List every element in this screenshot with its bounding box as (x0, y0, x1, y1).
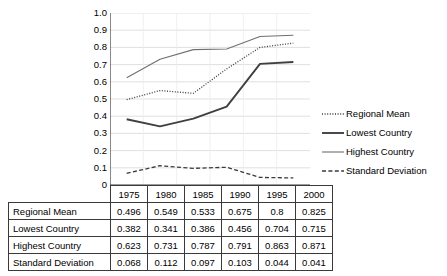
table-cell: 0.097 (185, 254, 222, 271)
legend-item[interactable]: Standard Deviation (322, 161, 447, 180)
table-cell: 0.103 (222, 254, 259, 271)
table-cell: 0.044 (259, 254, 296, 271)
table-cell: 0.715 (296, 220, 333, 237)
y-axis-tick-label: 0.5 (81, 94, 107, 104)
legend-line-icon (322, 109, 344, 119)
table-header-cell: 2000 (296, 186, 333, 203)
table-header-cell: 1980 (148, 186, 185, 203)
table-row-label: Highest Country (9, 237, 111, 254)
table-row: Standard Deviation0.0680.1120.0970.1030.… (9, 254, 333, 271)
table-body: Regional Mean0.4960.5490.5330.6750.80.82… (9, 203, 333, 271)
table-header-cell: 1975 (111, 186, 148, 203)
legend-item[interactable]: Lowest Country (322, 123, 447, 142)
table-cell: 0.623 (111, 237, 148, 254)
table-row: Regional Mean0.4960.5490.5330.6750.80.82… (9, 203, 333, 220)
table-header-cell: 1995 (259, 186, 296, 203)
y-axis-tick-label: 0.2 (81, 146, 107, 156)
legend-item[interactable]: Highest Country (322, 142, 447, 161)
legend-line-icon (322, 128, 344, 138)
chart-figure: 1.00.90.80.70.60.50.40.30.20.10 Regional… (0, 0, 447, 276)
table-header-cell: 1990 (222, 186, 259, 203)
plot-area (110, 13, 310, 185)
legend-item-label: Standard Deviation (346, 165, 427, 176)
legend-item-label: Regional Mean (346, 108, 410, 119)
y-axis-tick-label: 0.1 (81, 163, 107, 173)
table-cell: 0.675 (222, 203, 259, 220)
table-cell: 0.825 (296, 203, 333, 220)
table-cell: 0.8 (259, 203, 296, 220)
table-cell: 0.496 (111, 203, 148, 220)
table-cell: 0.871 (296, 237, 333, 254)
table-cell: 0.791 (222, 237, 259, 254)
legend-item-label: Highest Country (346, 146, 414, 157)
table-cell: 0.341 (148, 220, 185, 237)
table-cell: 0.382 (111, 220, 148, 237)
table-cell: 0.112 (148, 254, 185, 271)
table-cell: 0.533 (185, 203, 222, 220)
data-table: 197519801985199019952000 Regional Mean0.… (8, 185, 333, 271)
table-row-label: Lowest Country (9, 220, 111, 237)
y-axis: 1.00.90.80.70.60.50.40.30.20.10 (80, 13, 107, 185)
y-axis-tick-label: 0.3 (81, 128, 107, 138)
table-header-row: 197519801985199019952000 (9, 186, 333, 203)
table-row: Lowest Country0.3820.3410.3860.4560.7040… (9, 220, 333, 237)
table-cell: 0.787 (185, 237, 222, 254)
table-row-label: Regional Mean (9, 203, 111, 220)
legend-item-label: Lowest Country (346, 127, 412, 138)
y-axis-tick-label: 0.4 (81, 111, 107, 121)
chart-legend: Regional MeanLowest CountryHighest Count… (322, 104, 447, 180)
y-axis-tick-label: 0.9 (81, 25, 107, 35)
table-cell: 0.863 (259, 237, 296, 254)
y-axis-tick-label: 0.8 (81, 42, 107, 52)
legend-line-icon (322, 147, 344, 157)
table-cell: 0.704 (259, 220, 296, 237)
table-cell: 0.386 (185, 220, 222, 237)
table-cell: 0.041 (296, 254, 333, 271)
y-axis-tick-label: 0.6 (81, 77, 107, 87)
y-axis-tick-label: 1.0 (81, 8, 107, 18)
plot-svg (110, 13, 310, 185)
table-cell: 0.731 (148, 237, 185, 254)
table-cell: 0.456 (222, 220, 259, 237)
table-cell: 0.068 (111, 254, 148, 271)
table-row: Highest Country0.6230.7310.7870.7910.863… (9, 237, 333, 254)
legend-line-icon (322, 166, 344, 176)
table-row-label: Standard Deviation (9, 254, 111, 271)
y-axis-tick-label: 0.7 (81, 60, 107, 70)
legend-item[interactable]: Regional Mean (322, 104, 447, 123)
table-header-cell: 1985 (185, 186, 222, 203)
table-corner-cell (9, 186, 111, 203)
table-cell: 0.549 (148, 203, 185, 220)
